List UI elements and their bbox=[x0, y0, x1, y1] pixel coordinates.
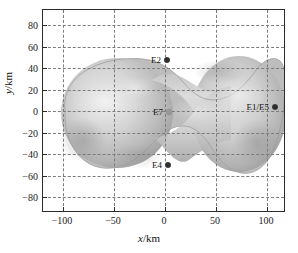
xtick-label-50: 50 bbox=[210, 215, 220, 226]
tickmark-y--80 bbox=[43, 197, 47, 198]
ytick-label-20: 20 bbox=[18, 85, 38, 96]
tickmark-y--40 bbox=[43, 154, 47, 155]
tickmark-x--100 bbox=[63, 207, 64, 211]
tickmark-x-50 bbox=[216, 207, 217, 211]
xtick-label-0: 0 bbox=[162, 215, 167, 226]
tickmark-y--20 bbox=[43, 133, 47, 134]
tickmark-y-80 bbox=[43, 25, 47, 26]
ytick-label--20: −20 bbox=[14, 128, 38, 139]
ytick-label-80: 80 bbox=[18, 20, 38, 31]
xtick-label--50: −50 bbox=[105, 215, 121, 226]
data-label-e2: E2 bbox=[151, 55, 161, 65]
plot-area: E2 E7 E4 E1/E5 bbox=[42, 9, 285, 212]
data-point-e7[interactable] bbox=[167, 110, 172, 115]
data-point-e2[interactable] bbox=[165, 58, 170, 63]
data-label-e4: E4 bbox=[152, 160, 162, 170]
ytick-label--60: −60 bbox=[14, 171, 38, 182]
tickmark-y-20 bbox=[43, 90, 47, 91]
data-label-e7: E7 bbox=[153, 107, 163, 117]
ytick-label--40: −40 bbox=[14, 149, 38, 160]
data-point-e4[interactable] bbox=[166, 163, 171, 168]
tickmark-x-0 bbox=[165, 207, 166, 211]
x-axis-unit: /km bbox=[143, 232, 160, 244]
tickmark-y-60 bbox=[43, 47, 47, 48]
y-axis-variable: y bbox=[2, 89, 14, 94]
y-axis-title: y/km bbox=[2, 72, 14, 94]
xtick-label-100: 100 bbox=[259, 215, 274, 226]
tickmark-x--50 bbox=[114, 207, 115, 211]
data-label-e1-e5: E1/E5 bbox=[247, 102, 270, 112]
tickmark-y--60 bbox=[43, 176, 47, 177]
tickmark-x-100 bbox=[267, 207, 268, 211]
tickmark-y-40 bbox=[43, 68, 47, 69]
ytick-label-40: 40 bbox=[18, 63, 38, 74]
ytick-label--80: −80 bbox=[14, 192, 38, 203]
ytick-label-60: 60 bbox=[18, 42, 38, 53]
data-point-e1-e5[interactable] bbox=[273, 105, 278, 110]
tickmark-y-0 bbox=[43, 111, 47, 112]
ytick-label-0: 0 bbox=[18, 106, 38, 117]
asteroid-landing-sites-figure: E2 E7 E4 E1/E5 −100 −50 0 50 100 80 60 4… bbox=[0, 0, 298, 253]
y-axis-unit: /km bbox=[2, 72, 14, 89]
x-axis-title: x/km bbox=[0, 232, 298, 244]
xtick-label--100: −100 bbox=[52, 215, 73, 226]
